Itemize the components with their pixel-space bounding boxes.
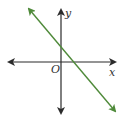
origin-label: O [51, 63, 60, 76]
x-axis-label: x [109, 66, 116, 79]
y-axis-label: y [64, 7, 72, 20]
coordinate-plane: y O x [0, 0, 124, 120]
